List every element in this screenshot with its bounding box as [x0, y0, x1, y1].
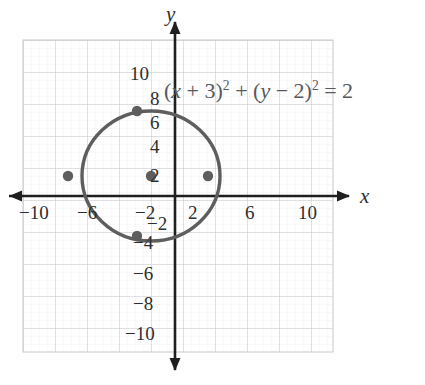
ytick-neg2: −2: [147, 214, 167, 233]
ytick-pos4: 4: [150, 137, 160, 156]
xtick-pos2: 2: [188, 203, 198, 222]
ytick-pos8: 8: [150, 89, 160, 108]
point-top: [132, 106, 142, 116]
equation-exponent-2: 2: [312, 78, 319, 93]
equation-minus-two: − 2): [270, 78, 312, 103]
x-axis-label: x: [360, 186, 369, 207]
point-right: [203, 171, 213, 181]
y-axis-bottom-arrow: [170, 358, 181, 371]
equation-plus: + (: [230, 78, 261, 103]
xtick-pos10: 10: [298, 203, 317, 222]
equation-equals: = 2: [319, 78, 353, 103]
xtick-neg10: −10: [19, 203, 49, 222]
x-axis-right-arrow: [337, 191, 350, 202]
equation-var-x: x: [171, 78, 181, 103]
equation-exponent-1: 2: [223, 78, 230, 93]
equation-annotation: (x + 3)2 + (y − 2)2 = 2: [164, 79, 353, 102]
ytick-neg8: −8: [133, 294, 153, 313]
y-axis-label: y: [166, 4, 175, 25]
ytick-neg6: −6: [133, 264, 153, 283]
equation-var-y: y: [260, 78, 270, 103]
point-left: [63, 171, 73, 181]
xtick-neg6: −6: [77, 203, 97, 222]
ytick-pos10: 10: [130, 64, 149, 83]
graph-figure: x y −10 −6 −2 2 6 10 10 8 6 4 2 −2 −4 −6…: [0, 0, 425, 385]
xtick-pos6: 6: [245, 203, 255, 222]
equation-plus-three: + 3): [181, 78, 223, 103]
ytick-neg4: −4: [133, 233, 153, 252]
ytick-neg10: −10: [125, 324, 155, 343]
x-axis-left-arrow: [9, 191, 22, 202]
ytick-pos2: 2: [150, 166, 160, 185]
ytick-pos6: 6: [150, 113, 160, 132]
